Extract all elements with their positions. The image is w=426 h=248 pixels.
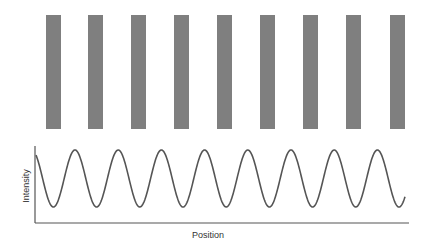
grating-bar: [131, 15, 146, 129]
x-axis-label: Position: [192, 230, 224, 240]
grating-bar: [260, 15, 275, 129]
grating-bar: [88, 15, 103, 129]
grating-bar: [46, 15, 61, 129]
grating-intensity-figure: Position Intensity: [0, 0, 426, 248]
grating-bar: [174, 15, 189, 129]
grating-bar: [217, 15, 232, 129]
grating-bar: [303, 15, 318, 129]
intensity-curve: [36, 150, 405, 207]
grating-bar: [346, 15, 361, 129]
grating-bar: [390, 15, 405, 129]
y-axis-label: Intensity: [21, 169, 31, 203]
grating-bars: [46, 15, 405, 129]
